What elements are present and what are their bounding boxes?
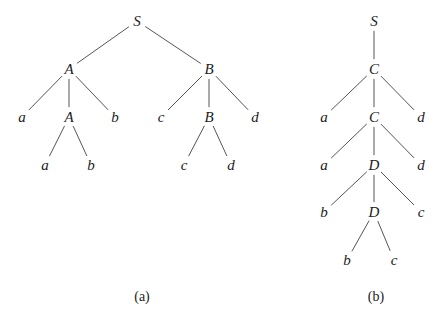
tree-node: d: [417, 158, 425, 173]
tree-node: a: [320, 158, 328, 173]
caption-b: (b): [368, 290, 384, 304]
tree-node: A: [64, 62, 73, 77]
tree-edge: [381, 172, 414, 205]
parse-tree-figure: SABaAbcBdabcdSCaCdaDdbDcbc (a) (b): [0, 0, 436, 321]
tree-node: d: [251, 110, 259, 125]
tree-edge: [331, 76, 367, 110]
tree-edge: [73, 126, 87, 156]
tree-edge: [145, 26, 201, 63]
tree-edge: [49, 126, 64, 156]
tree-node: a: [320, 110, 328, 125]
tree-edge: [29, 76, 62, 110]
tree-node: S: [133, 14, 141, 29]
tree-node: b: [343, 253, 351, 268]
tree-node: S: [370, 14, 378, 29]
tree-edge: [352, 221, 369, 252]
tree-edge: [189, 126, 205, 156]
tree-node: d: [227, 158, 235, 173]
tree-edge: [216, 76, 248, 110]
tree-node: d: [417, 110, 425, 125]
tree-edge: [168, 76, 202, 110]
tree-edge: [381, 76, 414, 110]
tree-edge: [331, 172, 367, 205]
tree-node: c: [181, 158, 188, 173]
tree-edge: [378, 221, 390, 251]
tree-edge: [331, 124, 367, 158]
tree-node: B: [204, 110, 213, 125]
tree-node: b: [87, 158, 95, 173]
tree-node: A: [64, 110, 73, 125]
tree-node: a: [18, 110, 26, 125]
tree-edge: [76, 76, 108, 110]
tree-node: b: [320, 205, 328, 220]
tree-node: D: [369, 205, 380, 220]
tree-node: C: [369, 110, 379, 125]
tree-node: b: [111, 110, 119, 125]
tree-node: D: [369, 158, 380, 173]
tree-edge: [77, 27, 129, 64]
tree-node: c: [158, 110, 165, 125]
caption-a: (a): [134, 290, 150, 304]
tree-edge: [381, 124, 414, 158]
tree-node: B: [204, 62, 213, 77]
tree-node: c: [391, 253, 398, 268]
tree-edge: [213, 126, 227, 156]
tree-node: C: [369, 62, 379, 77]
tree-node: a: [41, 158, 49, 173]
tree-node: c: [418, 205, 425, 220]
